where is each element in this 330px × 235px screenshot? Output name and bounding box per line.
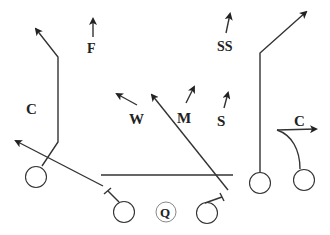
label-strong-safety: SS — [217, 39, 233, 54]
right-receiver — [250, 173, 271, 194]
mike-arrow-icon — [186, 87, 194, 103]
label-free-safety: F — [87, 41, 96, 56]
right-receiver-route — [260, 12, 306, 172]
label-left-corner: C — [26, 101, 37, 117]
label-quarterback: Q — [160, 205, 170, 220]
play-diagram: C F SS W M S C Q — [0, 0, 330, 235]
left-lineman — [114, 202, 135, 223]
will-arrow-icon — [117, 94, 137, 105]
sam-arrow-icon — [224, 93, 228, 108]
left-receiver — [26, 167, 47, 188]
left-receiver-route — [36, 29, 58, 166]
right-back — [294, 170, 315, 191]
right-lineman — [197, 203, 218, 224]
right-lineman-block — [205, 197, 222, 203]
strong-safety-arrow-icon — [226, 14, 230, 33]
right-back-arrow-icon — [277, 129, 316, 130]
label-will: W — [129, 111, 144, 127]
label-right-corner: C — [294, 113, 305, 129]
right-back-route — [277, 130, 300, 169]
label-mike: M — [177, 110, 191, 126]
left-lineman-block — [108, 191, 119, 202]
label-sam: S — [217, 113, 225, 129]
